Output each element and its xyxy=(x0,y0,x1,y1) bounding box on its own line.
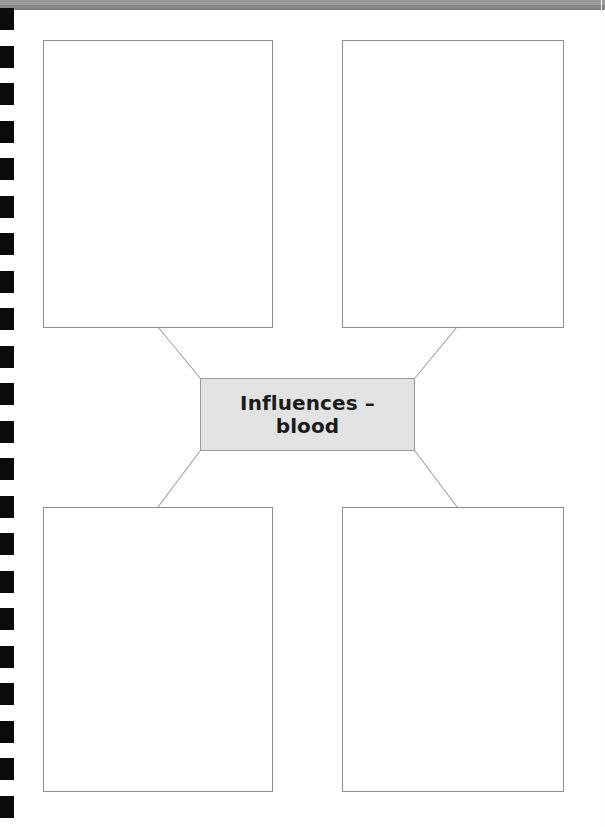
binding-hole xyxy=(0,458,14,480)
center-topic-box[interactable]: Influences – blood xyxy=(200,378,415,451)
binding-hole xyxy=(0,683,14,705)
connector-line-center-to-top-left xyxy=(158,327,200,378)
binding-hole xyxy=(0,421,14,443)
binding-hole xyxy=(0,496,14,518)
binding-hole xyxy=(0,121,14,143)
binding-hole xyxy=(0,571,14,593)
answer-box-bottom-left[interactable] xyxy=(43,507,273,792)
binding-hole xyxy=(0,646,14,668)
answer-box-top-right[interactable] xyxy=(342,40,564,328)
binding-hole xyxy=(0,46,14,68)
worksheet-page: Influences – blood xyxy=(0,0,605,827)
binding-hole xyxy=(0,83,14,105)
right-margin-rule xyxy=(601,0,602,827)
binding-hole xyxy=(0,721,14,743)
binding-hole xyxy=(0,346,14,368)
connector-line-center-to-top-right xyxy=(415,327,457,378)
binding-hole xyxy=(0,608,14,630)
binding-hole xyxy=(0,196,14,218)
binding-hole xyxy=(0,271,14,293)
connector-line-center-to-bottom-right xyxy=(415,451,457,507)
binding-hole xyxy=(0,796,14,818)
answer-box-bottom-right[interactable] xyxy=(342,507,564,792)
binding-hole xyxy=(0,308,14,330)
answer-box-top-left[interactable] xyxy=(43,40,273,328)
connector-line-center-to-bottom-left xyxy=(158,451,200,507)
center-topic-label: Influences – blood xyxy=(240,392,375,437)
binding-hole xyxy=(0,8,14,30)
binding-hole xyxy=(0,158,14,180)
binding-hole xyxy=(0,233,14,255)
binding-hole xyxy=(0,383,14,405)
spiral-binding-holes xyxy=(0,0,18,827)
binding-hole xyxy=(0,533,14,555)
page-top-band-sheen xyxy=(0,2,605,5)
page-top-band xyxy=(0,0,605,10)
binding-hole xyxy=(0,758,14,780)
